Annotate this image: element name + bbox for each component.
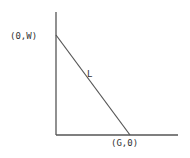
line-diagram: (0,W) (G,0) L (0, 0, 190, 158)
label-line-name: L (87, 69, 92, 80)
label-top-vertex: (0,W) (10, 31, 37, 42)
diagram-canvas (0, 0, 190, 158)
label-bottom-vertex: (G,0) (111, 138, 138, 149)
constraint-line-L (56, 35, 130, 135)
